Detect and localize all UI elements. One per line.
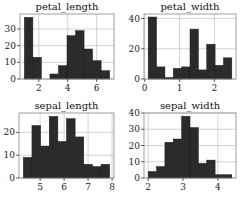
histogram-bar <box>41 146 50 178</box>
y-axis-ticks: 010203040 <box>129 108 144 183</box>
histogram-bar <box>50 74 59 79</box>
histogram-bar <box>148 17 156 79</box>
histogram-bar <box>182 116 190 178</box>
histogram-figure: 2460102030petal_length 01202040petal_wid… <box>0 0 241 206</box>
histogram-bar <box>32 126 41 178</box>
histogram-petal-length: 2460102030petal_length <box>5 1 114 93</box>
x-tick-label: 8 <box>109 182 115 192</box>
y-tick-label: 20 <box>129 141 141 151</box>
histogram-bar <box>173 68 181 79</box>
histogram-bar <box>67 119 76 178</box>
histogram-bar <box>101 71 110 79</box>
histogram-bar <box>58 66 67 79</box>
chart-title: sepal_length <box>34 100 99 112</box>
x-axis-ticks: 246 <box>36 79 100 93</box>
chart-title: petal_length <box>36 1 99 13</box>
y-tick-label: 30 <box>129 124 141 134</box>
histogram-bar <box>101 164 110 178</box>
histogram-bar <box>84 164 93 178</box>
histogram-bar <box>198 70 206 79</box>
x-axis-ticks: 234 <box>145 178 221 192</box>
histogram-bar <box>157 167 165 178</box>
x-tick-label: 2 <box>212 83 218 93</box>
histogram-bar <box>207 160 215 178</box>
y-tick-label: 30 <box>5 24 17 34</box>
x-axis-ticks: 5678 <box>37 178 115 192</box>
histogram-bars <box>148 17 232 79</box>
histogram-petal-width: 01202040petal_width <box>129 1 236 93</box>
x-axis-ticks: 012 <box>142 79 217 93</box>
histogram-bar <box>215 65 223 79</box>
histogram-bar <box>165 142 173 178</box>
histogram-sepal-length: 567801020sepal_length <box>4 100 116 192</box>
y-tick-label: 40 <box>129 108 141 118</box>
histogram-bar <box>182 67 190 79</box>
histogram-bar <box>58 142 67 178</box>
histogram-bar <box>23 157 32 178</box>
y-tick-label: 40 <box>129 14 141 24</box>
histogram-bars <box>148 116 232 178</box>
histogram-bar <box>84 49 93 79</box>
y-tick-label: 20 <box>4 127 16 137</box>
x-tick-label: 0 <box>142 83 148 93</box>
chart-title: sepal_width <box>160 100 221 112</box>
histogram-bar <box>24 17 33 79</box>
histogram-bar <box>148 172 156 179</box>
histogram-bar <box>33 57 42 79</box>
x-tick-label: 4 <box>215 182 221 192</box>
y-tick-label: 0 <box>10 74 16 84</box>
y-axis-ticks: 01020 <box>4 127 19 183</box>
histogram-bar <box>92 167 101 178</box>
histogram-bar <box>75 137 84 178</box>
histogram-bar <box>207 44 215 79</box>
histogram-sepal-width: 234010203040sepal_width <box>129 100 236 192</box>
y-tick-label: 10 <box>4 150 16 160</box>
histogram-bar <box>223 58 231 79</box>
histogram-bar <box>93 61 102 79</box>
histogram-bars <box>23 116 109 178</box>
histogram-bar <box>215 175 223 178</box>
histogram-bar <box>49 116 58 178</box>
x-tick-label: 7 <box>85 182 91 192</box>
histogram-bar <box>157 67 165 79</box>
y-axis-ticks: 02040 <box>129 14 144 84</box>
chart-title: petal_width <box>160 1 220 13</box>
y-tick-label: 20 <box>129 44 141 54</box>
x-tick-label: 2 <box>36 83 42 93</box>
x-tick-label: 1 <box>177 83 183 93</box>
x-tick-label: 4 <box>65 83 71 93</box>
histogram-bar <box>76 31 85 79</box>
y-tick-label: 0 <box>9 173 15 183</box>
y-tick-label: 10 <box>5 57 17 67</box>
histogram-bar <box>67 36 76 79</box>
x-tick-label: 5 <box>37 182 43 192</box>
y-tick-label: 20 <box>5 41 17 51</box>
histogram-bar <box>173 139 181 178</box>
histogram-bar <box>190 29 198 79</box>
x-tick-label: 2 <box>145 182 151 192</box>
histogram-bar <box>223 175 231 178</box>
x-tick-label: 3 <box>180 182 186 192</box>
x-tick-label: 6 <box>61 182 67 192</box>
histogram-bar <box>198 163 206 178</box>
y-tick-label: 10 <box>129 157 141 167</box>
y-tick-label: 0 <box>134 74 140 84</box>
histogram-bar <box>190 128 198 178</box>
y-axis-ticks: 0102030 <box>5 24 20 84</box>
y-tick-label: 0 <box>134 173 140 183</box>
x-tick-label: 6 <box>94 83 100 93</box>
